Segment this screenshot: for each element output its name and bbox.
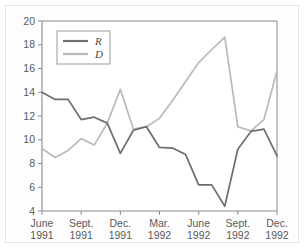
y-tick-label: 12 — [23, 110, 35, 122]
x-tick-label-month: June — [187, 217, 210, 229]
chart-figure: 468101214161820 June1991Sept.1991Dec.199… — [0, 0, 304, 248]
y-tick-label: 10 — [23, 133, 35, 145]
y-tick-label: 14 — [23, 86, 35, 98]
line-chart: 468101214161820 June1991Sept.1991Dec.199… — [0, 0, 304, 248]
x-tick-label-year: 1992 — [226, 229, 250, 241]
y-tick-label: 16 — [23, 62, 35, 74]
x-axis-tick-labels: June1991Sept.1991Dec.1991Mar.1992June199… — [30, 217, 289, 241]
y-tick-label: 6 — [29, 181, 35, 193]
x-tick-label-month: Mar. — [149, 217, 169, 229]
x-axis-ticks — [42, 211, 277, 215]
legend-label-d: D — [94, 48, 103, 60]
x-tick-label-year: 1992 — [265, 229, 289, 241]
x-tick-label-year: 1991 — [30, 229, 54, 241]
x-tick-label-year: 1992 — [148, 229, 172, 241]
legend-label-r: R — [94, 35, 102, 47]
chart-legend: RD — [57, 31, 110, 64]
y-axis-ticks — [38, 21, 42, 211]
x-tick-label-year: 1991 — [69, 229, 93, 241]
y-axis-tick-labels: 468101214161820 — [23, 15, 35, 217]
y-tick-label: 4 — [29, 205, 35, 217]
x-tick-label-month: Sept. — [226, 217, 251, 229]
x-tick-label-month: June — [31, 217, 54, 229]
x-tick-label-year: 1992 — [187, 229, 211, 241]
x-tick-label-month: Dec. — [110, 217, 132, 229]
x-tick-label-year: 1991 — [109, 229, 133, 241]
y-tick-label: 8 — [29, 157, 35, 169]
y-tick-label: 18 — [23, 38, 35, 50]
x-tick-label-month: Dec. — [266, 217, 288, 229]
y-tick-label: 20 — [23, 15, 35, 27]
x-tick-label-month: Sept. — [69, 217, 94, 229]
